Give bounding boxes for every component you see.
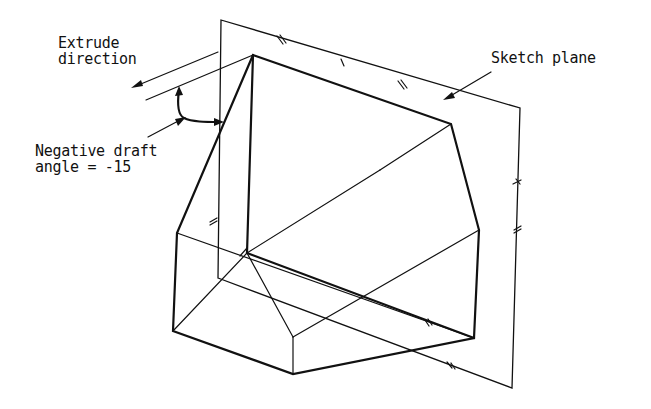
draft-angle-annotation: [148, 86, 224, 137]
arrowhead-icon: [131, 80, 143, 88]
sketch-plane-leader: [443, 72, 491, 100]
arrowhead-icon: [443, 92, 455, 100]
label-extrude-direction-2: direction: [58, 51, 137, 68]
arrowhead-icon: [175, 117, 186, 126]
label-draft-angle-2: angle = -15: [35, 159, 131, 176]
diagram-canvas: Extrude direction Negative draft angle =…: [0, 0, 651, 409]
extrude-direction-arrow: [131, 52, 253, 100]
label-sketch-plane: Sketch plane: [491, 50, 596, 67]
